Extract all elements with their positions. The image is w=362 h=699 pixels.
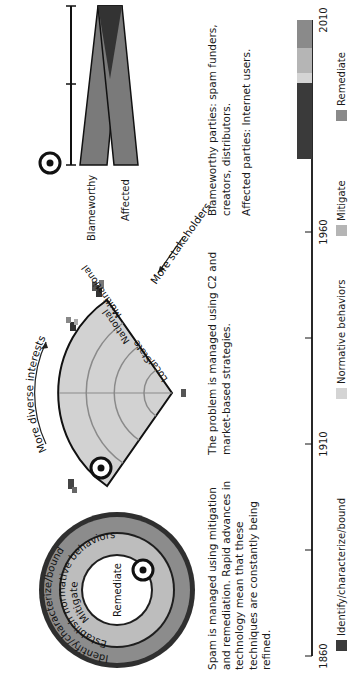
parties-description-blameworthy: Blameworthy parties: spam funders, creat… [206, 11, 233, 216]
segment-identify [297, 83, 312, 159]
ring-label-remediate: Remediate [112, 563, 123, 617]
swatch-mitigate [336, 225, 347, 236]
target-icon [133, 560, 153, 580]
swatch-identify [336, 640, 347, 651]
year-1960: 1960 [318, 219, 329, 244]
legend-mitigate: Mitigate [336, 180, 347, 236]
year-1910: 1910 [318, 431, 329, 456]
people-icon-group-small [68, 479, 77, 493]
parties-diagram [40, 6, 138, 173]
fan-radial-label: More stakeholders [148, 200, 213, 286]
rings-diagram: Identify/characterize/bound Establish no… [39, 512, 195, 668]
label-affected: Affected [120, 179, 131, 221]
fan-arc-label: More diverse interests [23, 333, 49, 455]
fan-diagram: More diverse interests Local State Natio… [23, 200, 213, 493]
year-1860: 1860 [318, 643, 329, 668]
label-blameworthy: Blameworthy [86, 175, 97, 241]
legend-normative: Normative behaviors [336, 280, 347, 399]
target-icon [91, 458, 111, 478]
segment-normative [297, 73, 312, 83]
year-2010: 2010 [318, 7, 329, 32]
parties-description-affected: Affected parties: Internet users. [240, 11, 254, 216]
fan-description: The problem is managed using C2 and mark… [206, 250, 233, 455]
target-icon [40, 153, 60, 173]
segment-mitigate [297, 48, 312, 73]
people-icon-group-medium [66, 317, 78, 331]
swatch-remediate [336, 110, 347, 121]
graphics-layer: Identify/characterize/bound Establish no… [0, 0, 362, 699]
legend-remediate: Remediate [336, 52, 347, 121]
swatch-normative [336, 388, 347, 399]
people-icon-local [181, 389, 186, 397]
legend-identify: Identify/characterize/bound [336, 498, 347, 651]
timeline [297, 20, 312, 656]
rings-description: Spam is managed using mitigation and rem… [206, 465, 274, 670]
segment-remediate [297, 20, 312, 48]
diagram-stage: Identify/characterize/bound Establish no… [0, 0, 362, 699]
